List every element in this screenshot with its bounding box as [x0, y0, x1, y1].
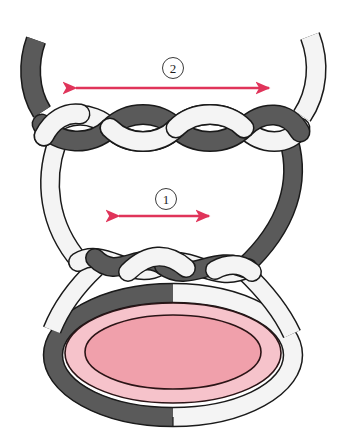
callout-marker-2: 2 [162, 57, 184, 79]
lower-braid-light-rightend [215, 265, 252, 272]
loop-left-light [50, 143, 80, 262]
loop-right-dark [243, 141, 293, 268]
callout-marker-1: 1 [155, 188, 177, 210]
figure-canvas: 2 1 [0, 0, 347, 448]
upper-braid-light-over2 [176, 115, 244, 129]
upper-twisted-throws [42, 114, 300, 142]
tissue-oval-inner [85, 315, 261, 389]
lower-twisted-throw [78, 256, 252, 273]
